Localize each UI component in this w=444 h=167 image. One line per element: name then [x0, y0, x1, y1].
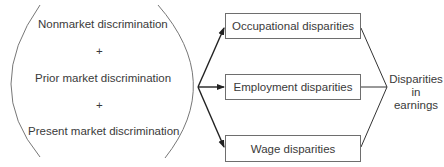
plus-sign-1: + — [96, 45, 103, 57]
box-label: Occupational disparities — [232, 20, 354, 32]
box-employment-disparities: Employment disparities — [225, 74, 361, 100]
arrow-to-wage — [198, 87, 224, 147]
cause-present-market: Present market discrimination — [28, 125, 179, 137]
outcome-line-3: earnings — [388, 99, 444, 112]
cause-nonmarket: Nonmarket discrimination — [38, 18, 168, 30]
outcome-label: Disparities in earnings — [388, 73, 444, 112]
arrow-to-occupational — [198, 28, 224, 87]
box-occupational-disparities: Occupational disparities — [225, 13, 361, 39]
plus-sign-2: + — [96, 99, 103, 111]
box-label: Wage disparities — [251, 143, 336, 155]
box-wage-disparities: Wage disparities — [225, 135, 361, 162]
outcome-line-2: in — [388, 86, 444, 99]
cause-prior-market: Prior market discrimination — [35, 72, 171, 84]
connector-occupational — [361, 28, 387, 87]
connector-wage — [361, 87, 387, 147]
outcome-line-1: Disparities — [388, 73, 444, 86]
box-label: Employment disparities — [234, 81, 353, 93]
